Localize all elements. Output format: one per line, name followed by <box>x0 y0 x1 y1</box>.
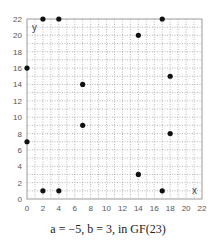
x-tick-label: 20 <box>182 204 191 213</box>
chart-caption: a = −5, b = 3, in GF(23) <box>0 222 216 237</box>
y-tick-label: 12 <box>13 97 22 106</box>
x-tick-label: 14 <box>134 204 143 213</box>
data-point <box>160 188 165 193</box>
data-point <box>24 65 29 70</box>
x-tick-labels: 0246810121416182022 <box>25 204 207 213</box>
y-tick-label: 6 <box>18 146 23 155</box>
y-tick-label: 14 <box>13 80 22 89</box>
y-tick-label: 22 <box>13 15 22 24</box>
y-tick-label: 16 <box>13 64 22 73</box>
x-tick-label: 18 <box>166 204 175 213</box>
grid-lines <box>27 19 202 199</box>
y-tick-label: 10 <box>13 113 22 122</box>
data-point <box>160 16 165 21</box>
x-axis-label: x <box>192 185 197 196</box>
y-tick-labels: 0246810121416182022 <box>13 15 22 204</box>
data-point <box>168 74 173 79</box>
data-point <box>24 139 29 144</box>
data-point <box>56 188 61 193</box>
y-tick-label: 18 <box>13 48 22 57</box>
scatter-plot: 0246810121416182022 0246810121416182022 … <box>0 0 216 215</box>
x-tick-label: 22 <box>198 204 207 213</box>
data-point <box>40 188 45 193</box>
data-point <box>80 82 85 87</box>
x-tick-label: 8 <box>88 204 93 213</box>
x-tick-label: 12 <box>118 204 127 213</box>
x-tick-label: 4 <box>57 204 62 213</box>
data-point <box>56 16 61 21</box>
y-axis-label: y <box>32 22 37 33</box>
data-point <box>80 123 85 128</box>
x-tick-label: 10 <box>102 204 111 213</box>
y-tick-label: 8 <box>18 130 23 139</box>
y-tick-label: 2 <box>18 179 23 188</box>
data-point <box>168 131 173 136</box>
data-point <box>136 172 141 177</box>
x-tick-label: 16 <box>150 204 159 213</box>
x-tick-label: 6 <box>73 204 78 213</box>
data-point <box>40 16 45 21</box>
x-tick-label: 2 <box>41 204 46 213</box>
x-tick-label: 0 <box>25 204 30 213</box>
y-tick-label: 0 <box>18 195 23 204</box>
y-tick-label: 20 <box>13 31 22 40</box>
y-tick-label: 4 <box>18 162 23 171</box>
data-point <box>136 33 141 38</box>
